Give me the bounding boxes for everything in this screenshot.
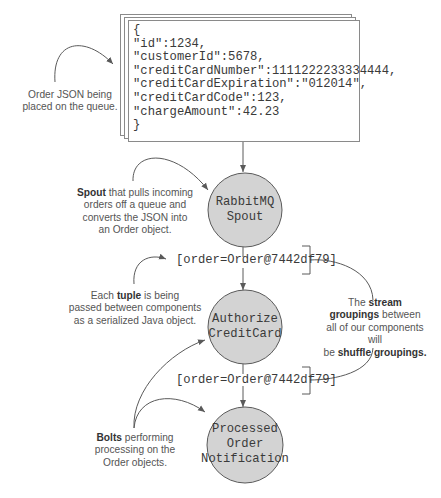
- note-line: as a serialized Java object.: [65, 315, 205, 327]
- note-text: Each: [91, 290, 117, 301]
- node-label-line: Notification: [195, 452, 295, 467]
- note-bold: stream: [368, 297, 401, 308]
- note-line: an Order object.: [70, 224, 200, 236]
- note-line: orders off a queue and: [70, 199, 200, 211]
- spout-node-label: RabbitMQ Spout: [205, 195, 285, 225]
- note-text: performing: [122, 432, 174, 443]
- note-bold: groupings: [329, 309, 379, 320]
- note-line: placed on the queue.: [10, 101, 130, 113]
- tuple-label-1: [order=Order@7442df79]: [176, 253, 337, 267]
- note-line: passed between components: [65, 302, 205, 314]
- note-text: be: [323, 347, 337, 358]
- note-line: The stream: [320, 297, 430, 309]
- notification-node-label: Processed Order Notification: [195, 422, 295, 467]
- note-text: that pulls incoming: [106, 187, 193, 198]
- node-label-line: CreditCard: [200, 327, 290, 342]
- bolts-note: Bolts performing processing on the Order…: [80, 432, 190, 469]
- storm-topology-diagram: { "id":1234, "customerId":5678, "creditC…: [0, 0, 441, 498]
- note-line: Order JSON being: [10, 89, 130, 101]
- note-line: Bolts performing: [80, 432, 190, 444]
- node-label-line: RabbitMQ: [205, 195, 285, 210]
- note-bold: Bolts: [97, 432, 122, 443]
- groupings-note: The stream groupings between all of our …: [320, 297, 430, 359]
- note-line: Order objects.: [80, 457, 190, 469]
- note-line: Each tuple is being: [65, 290, 205, 302]
- node-label-line: Spout: [205, 210, 285, 225]
- note-text: between: [379, 309, 420, 320]
- note-text: is being: [141, 290, 179, 301]
- order-json-note: Order JSON being placed on the queue.: [10, 89, 130, 114]
- spout-note: Spout that pulls incoming orders off a q…: [70, 187, 200, 237]
- tuple-note: Each tuple is being passed between compo…: [65, 290, 205, 327]
- node-label-line: Authorize: [200, 312, 290, 327]
- note-line: processing on the: [80, 444, 190, 456]
- note-line: groupings between: [320, 309, 430, 321]
- authorize-node-label: Authorize CreditCard: [200, 312, 290, 342]
- note-line: converts the JSON into: [70, 212, 200, 224]
- note-bold: tuple: [117, 290, 141, 301]
- note-bold: shuffle groupings.: [338, 347, 427, 358]
- note-line: Spout that pulls incoming: [70, 187, 200, 199]
- note-text: The: [348, 297, 368, 308]
- note-line: be shuffle groupings.: [320, 347, 430, 359]
- note-bold: Spout: [77, 187, 106, 198]
- tuple-label-2: [order=Order@7442df79]: [176, 373, 337, 387]
- note-line: all of our components will: [320, 322, 430, 347]
- node-label-line: Processed: [195, 422, 295, 437]
- node-label-line: Order: [195, 437, 295, 452]
